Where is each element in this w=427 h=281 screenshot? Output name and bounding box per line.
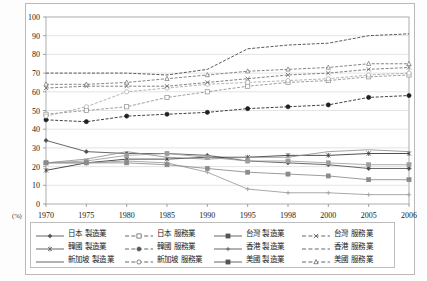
marker-circle bbox=[246, 107, 250, 111]
marker-circle bbox=[125, 114, 129, 118]
marker-square bbox=[326, 174, 330, 178]
marker-square bbox=[125, 153, 129, 157]
ytick-label: 10 bbox=[32, 181, 40, 190]
chart-legend: 日本 製造業日本 服務業台灣 製造業台灣 服務業韓國 製造業韓國 服務業香港 製… bbox=[30, 222, 395, 268]
legend-label: 香港 服務業 bbox=[334, 240, 373, 251]
marker-circle-open bbox=[326, 77, 330, 81]
legend-item[interactable]: 新加坡 製造業 bbox=[35, 253, 124, 264]
xtick-label: 2005 bbox=[361, 211, 377, 220]
ytick-label: 70 bbox=[32, 69, 40, 78]
marker-diamond bbox=[48, 234, 52, 238]
xtick-label: 1980 bbox=[119, 211, 135, 220]
marker-square bbox=[407, 178, 411, 182]
ytick-label: 80 bbox=[32, 50, 40, 59]
legend-item[interactable]: 日本 製造業 bbox=[35, 227, 124, 238]
legend-label: 新加坡 製造業 bbox=[68, 253, 114, 264]
marker-square-open bbox=[125, 105, 129, 109]
legend-label: 韓國 服務業 bbox=[157, 240, 196, 251]
marker-square bbox=[326, 161, 330, 165]
ytick-label: 60 bbox=[32, 88, 40, 97]
marker-square bbox=[286, 172, 290, 176]
xtick-label: 1975 bbox=[78, 211, 94, 220]
legend-label: 台灣 製造業 bbox=[246, 227, 285, 238]
legend-key-icon bbox=[35, 257, 65, 267]
marker-square bbox=[205, 155, 209, 159]
xtick-label: 1985 bbox=[159, 211, 175, 220]
xtick-label: 2000 bbox=[320, 211, 336, 220]
marker-circle bbox=[165, 112, 169, 116]
legend-item[interactable]: 台灣 製造業 bbox=[213, 227, 302, 238]
marker-circle-open bbox=[125, 90, 129, 94]
marker-circle-open bbox=[286, 78, 290, 82]
marker-circle bbox=[84, 120, 88, 124]
legend-label: 新加坡 服務業 bbox=[157, 253, 203, 264]
ytick-label: 90 bbox=[32, 32, 40, 41]
legend-marker-icon bbox=[213, 240, 243, 250]
legend-label: 日本 製造業 bbox=[68, 227, 107, 238]
legend-label: 美國 服務業 bbox=[334, 253, 373, 264]
marker-square bbox=[367, 178, 371, 182]
ytick-label: 30 bbox=[32, 144, 40, 153]
xtick-label: 1995 bbox=[240, 211, 256, 220]
marker-square bbox=[44, 161, 48, 165]
marker-plus bbox=[225, 247, 229, 251]
marker-circle-open bbox=[44, 114, 48, 118]
legend-marker-icon bbox=[124, 240, 154, 250]
marker-circle-open bbox=[137, 260, 141, 264]
legend-key-icon bbox=[301, 257, 331, 267]
marker-square bbox=[286, 159, 290, 163]
legend-marker-icon bbox=[124, 227, 154, 237]
legend-row: 韓國 製造業韓國 服務業香港 製造業香港 服務業 bbox=[35, 239, 390, 252]
marker-square bbox=[225, 260, 229, 264]
legend-item[interactable]: 香港 服務業 bbox=[301, 240, 390, 251]
marker-square bbox=[165, 151, 169, 155]
legend-marker-icon bbox=[301, 227, 331, 237]
legend-item[interactable]: 美國 製造業 bbox=[213, 253, 302, 264]
legend-label: 日本 服務業 bbox=[157, 227, 196, 238]
marker-square bbox=[165, 163, 169, 167]
ytick-label: 0 bbox=[36, 200, 40, 209]
legend-label: 美國 製造業 bbox=[246, 253, 285, 264]
marker-square bbox=[125, 161, 129, 165]
legend-item[interactable]: 台灣 服務業 bbox=[301, 227, 390, 238]
legend-marker-icon bbox=[35, 240, 65, 250]
legend-label: 台灣 服務業 bbox=[334, 227, 373, 238]
legend-key-icon bbox=[213, 257, 243, 267]
marker-square bbox=[84, 161, 88, 165]
marker-circle-open bbox=[407, 71, 411, 75]
marker-square bbox=[367, 163, 371, 167]
marker-square bbox=[205, 166, 209, 170]
legend-item[interactable]: 韓國 製造業 bbox=[35, 240, 124, 251]
legend-key-icon bbox=[124, 257, 154, 267]
legend-item[interactable]: 日本 服務業 bbox=[124, 227, 213, 238]
marker-square bbox=[225, 234, 229, 238]
legend-marker-icon bbox=[35, 253, 65, 263]
marker-square-open bbox=[165, 95, 169, 99]
legend-item[interactable]: 新加坡 服務業 bbox=[124, 253, 213, 264]
marker-circle-open bbox=[367, 73, 371, 77]
chart-figure: 0102030405060708090100197019751980198519… bbox=[0, 0, 427, 281]
marker-circle bbox=[367, 95, 371, 99]
legend-row: 日本 製造業日本 服務業台灣 製造業台灣 服務業 bbox=[35, 226, 390, 239]
legend-row: 新加坡 製造業新加坡 服務業美國 製造業美國 服務業 bbox=[35, 252, 390, 265]
legend-label: 香港 製造業 bbox=[246, 240, 285, 251]
marker-circle-open bbox=[84, 105, 88, 109]
legend-item[interactable]: 韓國 服務業 bbox=[124, 240, 213, 251]
marker-circle bbox=[286, 105, 290, 109]
legend-item[interactable]: 美國 服務業 bbox=[301, 253, 390, 264]
marker-circle bbox=[205, 110, 209, 114]
marker-circle-open bbox=[246, 80, 250, 84]
marker-square bbox=[246, 159, 250, 163]
legend-item[interactable]: 香港 製造業 bbox=[213, 240, 302, 251]
legend-marker-icon bbox=[213, 253, 243, 263]
marker-circle bbox=[326, 103, 330, 107]
legend-marker-icon bbox=[301, 240, 331, 250]
xtick-label: 1970 bbox=[38, 211, 54, 220]
legend-label: 韓國 製造業 bbox=[68, 240, 107, 251]
xtick-label: 1990 bbox=[199, 211, 215, 220]
xtick-label: 2006 bbox=[401, 211, 417, 220]
ytick-label: 40 bbox=[32, 125, 40, 134]
legend-marker-icon bbox=[124, 253, 154, 263]
marker-square bbox=[407, 163, 411, 167]
legend-marker-icon bbox=[301, 253, 331, 263]
